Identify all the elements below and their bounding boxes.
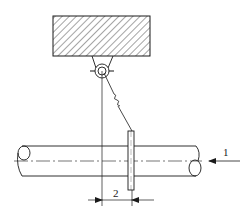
pipe <box>14 146 202 176</box>
wire-break-mark <box>114 94 120 106</box>
diagram-canvas: 1 2 <box>0 0 251 221</box>
pipe-left-end <box>18 146 30 160</box>
flow-arrow-label: 1 <box>223 146 229 158</box>
support-block <box>53 16 150 56</box>
bracket-left <box>92 56 96 68</box>
bracket-right <box>108 56 113 68</box>
dimension-label: 2 <box>113 187 119 199</box>
pipe-right-end <box>189 160 201 176</box>
wire <box>104 73 132 131</box>
dimension-2: 2 <box>88 187 154 200</box>
flow-arrow: 1 <box>209 146 240 161</box>
